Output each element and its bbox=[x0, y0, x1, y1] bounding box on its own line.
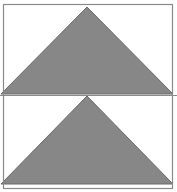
figure-canvas bbox=[0, 0, 177, 192]
geometry-figure bbox=[0, 0, 177, 192]
